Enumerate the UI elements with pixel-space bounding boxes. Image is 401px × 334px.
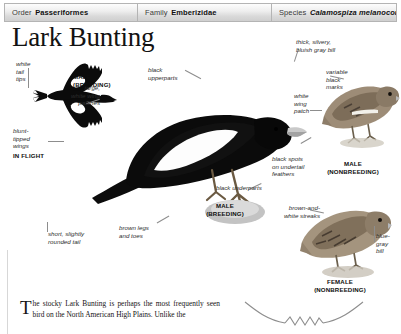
leader-line-white-wing-patch — [310, 110, 322, 111]
paragraph-drop-cap: T — [20, 299, 33, 315]
left-margin-rule — [7, 250, 8, 334]
family-value: Emberizidae — [171, 8, 216, 17]
figure-label-male-breeding-perched: MALE (BREEDING) — [198, 202, 252, 217]
annotation-white-wing-patch: white wing patch — [294, 92, 309, 115]
order-value: Passeriformes — [35, 8, 88, 17]
figure-label-female-nonbreeding: FEMALE (NONBREEDING) — [300, 278, 380, 293]
species-key-label: Species — [279, 8, 306, 17]
annotation-variable-black-marks: variable black marks — [326, 68, 348, 91]
family-key-label: Family — [145, 8, 168, 17]
annotation-short-rounded-tail: short, slightly rounded tail — [48, 230, 84, 245]
annotation-black-underparts: black underparts — [216, 184, 262, 192]
taxonomy-family-cell: Family Emberizidae — [138, 4, 272, 21]
taxonomy-header: Order Passeriformes Family Emberizidae S… — [4, 3, 397, 22]
field-guide-page: Order Passeriformes Family Emberizidae S… — [0, 0, 401, 334]
leader-line-blunt-tipped-wings — [48, 141, 64, 142]
annotation-blunt-tipped-wings: blunt- tipped wings — [13, 127, 30, 150]
annotation-black-upperparts: black upperparts — [148, 66, 178, 81]
annotation-blue-gray-bill: blue- gray bill — [376, 232, 390, 255]
figure-label-male-nonbreeding: MALE (NONBREEDING) — [318, 160, 388, 175]
taxonomy-species-cell: Species Calamospiza melanocorys — [272, 4, 396, 21]
figure-label-male-breeding-flight: MALE (BREEDING) — [73, 73, 111, 88]
annotation-brown-and-white-streaks: brown-and- white streaks — [262, 204, 320, 219]
paragraph-text: he stocky Lark Bunting is perhaps the mo… — [33, 299, 220, 319]
flight-pattern-sonogram — [245, 300, 363, 330]
taxonomy-order-cell: Order Passeriformes — [5, 4, 138, 21]
annotation-thick-silvery-bill: thick, silvery, bluish gray bill — [296, 38, 335, 53]
annotation-brown-legs-and-toes: brown legs and toes — [119, 224, 149, 239]
leader-line-blue-gray-bill — [374, 226, 375, 242]
figure-label-in-flight: IN FLIGHT — [13, 152, 44, 160]
annotation-black-spots-undertail: black spots on undertail feathers — [272, 155, 304, 178]
page-title: Lark Bunting — [12, 24, 154, 51]
species-value: Calamospiza melanocorys — [310, 8, 396, 17]
species-description-paragraph: The stocky Lark Bunting is perhaps the m… — [20, 299, 220, 320]
order-key-label: Order — [12, 8, 32, 17]
annotation-white-tail-tips: white tail tips — [16, 60, 30, 83]
